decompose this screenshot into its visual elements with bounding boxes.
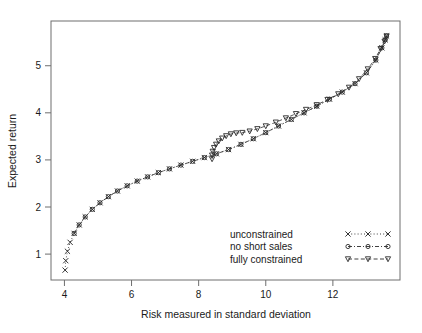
y-axis-tick-label: 2: [35, 202, 41, 213]
x-axis-tick-label: 10: [260, 289, 272, 300]
y-axis-tick-label: 3: [35, 154, 41, 165]
x-axis-tick-label: 8: [196, 289, 202, 300]
x-axis-tick-label: 12: [327, 289, 339, 300]
chart-background: [0, 0, 422, 333]
y-axis-tick-label: 5: [35, 60, 41, 71]
y-axis-title: Expected return: [6, 114, 18, 188]
legend-label-fully-constrained: fully constrained: [230, 254, 302, 265]
y-axis-tick-label: 1: [35, 249, 41, 260]
x-axis-tick-label: 6: [129, 289, 135, 300]
legend-label-no-short-sales: no short sales: [230, 241, 292, 252]
y-axis-tick-label: 4: [35, 107, 41, 118]
legend-label-unconstrained: unconstrained: [230, 229, 293, 240]
x-axis-tick-label: 4: [62, 289, 68, 300]
x-axis-title: Risk measured in standard deviation: [141, 308, 311, 320]
chart-figure: 468101212345 unconstrainedno short sales…: [0, 0, 422, 333]
efficient-frontier-chart: 468101212345 unconstrainedno short sales…: [0, 0, 422, 333]
